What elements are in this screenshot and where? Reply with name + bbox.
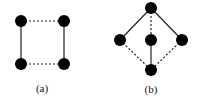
node (58, 15, 70, 27)
solid-edge (120, 8, 151, 40)
solid-edge (151, 8, 182, 40)
graph-b (114, 2, 188, 76)
graph-diagram (0, 0, 198, 99)
node (176, 34, 188, 46)
caption-a: (a) (36, 82, 48, 94)
node (15, 58, 27, 70)
node (145, 2, 157, 14)
caption-b: (b) (145, 83, 158, 95)
dashed-edge (120, 40, 151, 70)
node (15, 15, 27, 27)
node (145, 34, 157, 46)
node (58, 58, 70, 70)
graph-a (15, 15, 70, 70)
dashed-edge (151, 40, 182, 70)
node (114, 34, 126, 46)
node (145, 64, 157, 76)
